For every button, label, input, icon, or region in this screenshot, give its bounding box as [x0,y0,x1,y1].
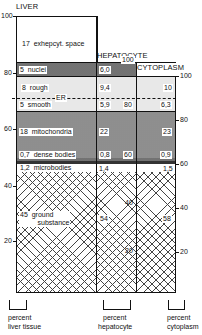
hep-tick-20: 20 [125,247,133,255]
cyto-value-mito: 23 [162,128,172,136]
tick [13,129,16,130]
cytoplasm-bracket [168,300,185,310]
footer-hepatocyte-line1: percent [103,314,126,322]
tick [176,76,179,77]
label-er: ER [55,94,67,102]
footer-liver-line1: percent [8,314,31,322]
footer-cytoplasm-line2: cytoplasm [167,323,199,331]
cyto-value-smooth: 6,3 [160,101,172,109]
hep-tick-40: 40 [125,199,133,207]
hep-value-microbodies: 1,4 [99,165,109,173]
hep-tick-80: 80 [123,101,133,109]
hepatocyte-axis-line [136,62,137,292]
liver-tick-80: 80 [4,69,12,77]
hep-value-rough: 9,4 [99,84,111,92]
cyto-value-microbodies: 1,5 [163,165,173,173]
footer-hepatocyte-line2: hepatocyte [98,323,132,331]
tick [13,16,16,17]
label-microbodies: 1,2 microbodies [19,164,72,172]
label-rough: 8 rough [21,84,49,92]
hep-value-ground: 54 [99,215,109,223]
liver-tick-100: 100 [1,12,13,20]
tick [13,186,16,187]
tick [176,252,179,253]
cyto-tick-100: 100 [180,72,192,80]
hep-value-smooth: 5,9 [99,101,111,109]
label-exhepcyt: 17 exhepcyt. space [22,40,84,48]
liver-tick-20: 20 [4,237,12,245]
tick [176,208,179,209]
label-nuclei: 5 nuclei [19,66,47,74]
baseline-right [16,292,176,293]
cyto-tick-20: 20 [180,248,188,256]
label-smooth: 5 smooth [19,101,52,109]
hep-tick-60: 60 [123,151,133,159]
tick [13,73,16,74]
ground-substance-segment [16,172,97,292]
cyto-value-rough: 10 [163,84,173,92]
liver-axis [16,16,17,292]
footer-cytoplasm-line1: percent [167,314,190,322]
tick [13,241,16,242]
hep-value-nuclei: 6,0 [99,66,111,74]
hep-ground-segment [97,172,136,292]
cyto-value-dense: 0,9 [160,151,172,159]
cytoplasm-axis-line [175,76,176,292]
hep-value-mito: 22 [99,128,109,136]
label-ground-substance: 45 ground substance [19,211,70,227]
liver-tick-60: 60 [4,125,12,133]
header-cytoplasm: CYTOPLASM [137,64,184,72]
label-mitochondria: 18 mitochondria [19,128,73,136]
tick [176,120,179,121]
cyto-value-ground: 58 [162,215,172,223]
liver-bracket [9,300,27,310]
hep-tick-100: 100 [121,56,135,64]
mito-line [16,111,176,112]
cyto-top-line [96,76,176,77]
liver-tick-40: 40 [4,182,12,190]
hep-value-dense: 0,8 [99,151,111,159]
tick [176,164,179,165]
cyto-ground-segment [137,172,175,292]
cyto-tick-60: 60 [180,160,188,168]
er-divider-right [96,98,176,99]
hepatocyte-bracket [103,300,131,310]
cyto-tick-80: 80 [180,116,188,124]
header-liver: LIVER [16,3,38,11]
cyto-tick-40: 40 [180,204,188,212]
footer-liver-line2: liver tissue [8,323,41,331]
label-dense-bodies: 0,7 dense bodies [19,151,76,159]
